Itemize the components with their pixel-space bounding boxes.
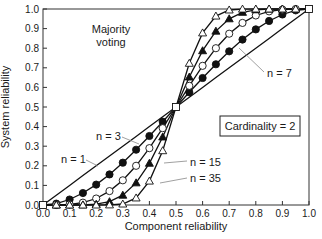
annotation-majority: Majority bbox=[92, 23, 131, 35]
data-point bbox=[252, 26, 259, 33]
y-tick-label: 0.4 bbox=[25, 121, 39, 132]
label-n15: n = 15 bbox=[190, 156, 221, 168]
annotation-voting: voting bbox=[96, 36, 125, 48]
data-point bbox=[199, 62, 206, 69]
data-point bbox=[79, 189, 86, 196]
y-axis-label: System reliability bbox=[0, 65, 11, 148]
y-tick-label: 0.0 bbox=[25, 200, 39, 211]
x-tick-label: 0.6 bbox=[196, 208, 210, 219]
y-tick-label: 0.7 bbox=[25, 62, 39, 73]
shared-point bbox=[306, 6, 313, 13]
y-tick-label: 0.5 bbox=[25, 102, 39, 113]
y-tick-label: 0.1 bbox=[25, 180, 39, 191]
data-point bbox=[146, 132, 153, 139]
data-point bbox=[186, 82, 193, 89]
x-tick-label: 0.5 bbox=[169, 208, 183, 219]
x-axis-label: Component reliability bbox=[125, 220, 228, 232]
x-tick-label: 0.2 bbox=[89, 208, 103, 219]
x-tick-label: 0.8 bbox=[249, 208, 263, 219]
y-tick-label: 0.6 bbox=[25, 82, 39, 93]
data-point bbox=[212, 45, 219, 52]
label-n3: n = 3 bbox=[96, 130, 121, 142]
label-n1: n = 1 bbox=[61, 153, 86, 165]
data-point bbox=[159, 133, 167, 140]
data-point bbox=[119, 200, 127, 207]
data-point bbox=[212, 61, 219, 68]
leader-n3 bbox=[122, 137, 139, 144]
data-point bbox=[185, 59, 193, 66]
data-point bbox=[106, 171, 113, 178]
data-point bbox=[266, 17, 273, 24]
data-point bbox=[119, 159, 126, 166]
y-tick-label: 1.0 bbox=[25, 4, 39, 15]
shared-point bbox=[40, 202, 47, 209]
leader-n1 bbox=[86, 160, 98, 166]
cardinality-label: Cardinality = 2 bbox=[225, 120, 296, 132]
data-point bbox=[146, 145, 153, 152]
label-n7: n = 7 bbox=[267, 67, 292, 79]
data-point bbox=[225, 15, 233, 22]
x-tick-label: 0.3 bbox=[116, 208, 130, 219]
data-point bbox=[226, 30, 233, 37]
x-tick-label: 0.4 bbox=[142, 208, 156, 219]
y-tick-label: 0.3 bbox=[25, 141, 39, 152]
data-point bbox=[199, 47, 207, 54]
label-n35: n = 35 bbox=[190, 172, 221, 184]
data-point bbox=[145, 159, 153, 166]
x-tick-label: 0.7 bbox=[222, 208, 236, 219]
data-point bbox=[239, 36, 246, 43]
data-point bbox=[106, 187, 113, 194]
data-point bbox=[212, 12, 220, 19]
shared-point bbox=[173, 104, 180, 111]
y-tick-label: 0.9 bbox=[25, 23, 39, 34]
data-point bbox=[133, 162, 140, 169]
x-tick-label: 0.9 bbox=[275, 208, 289, 219]
y-tick-label: 0.2 bbox=[25, 160, 39, 171]
y-tick-label: 0.8 bbox=[25, 43, 39, 54]
data-point bbox=[199, 74, 206, 81]
data-point bbox=[226, 48, 233, 55]
leader-n35 bbox=[160, 178, 187, 183]
data-point bbox=[159, 125, 166, 132]
data-point bbox=[93, 181, 100, 188]
x-tick-label: 1.0 bbox=[302, 208, 316, 219]
data-point bbox=[119, 177, 126, 184]
x-tick-label: 0.1 bbox=[63, 208, 77, 219]
data-point bbox=[145, 177, 153, 184]
data-point bbox=[239, 19, 246, 26]
data-point bbox=[133, 146, 140, 153]
leader-n15 bbox=[164, 161, 187, 163]
majority-voting-chart: 0.00.10.20.30.40.50.60.70.80.91.00.00.10… bbox=[0, 0, 322, 239]
data-point bbox=[159, 147, 167, 154]
